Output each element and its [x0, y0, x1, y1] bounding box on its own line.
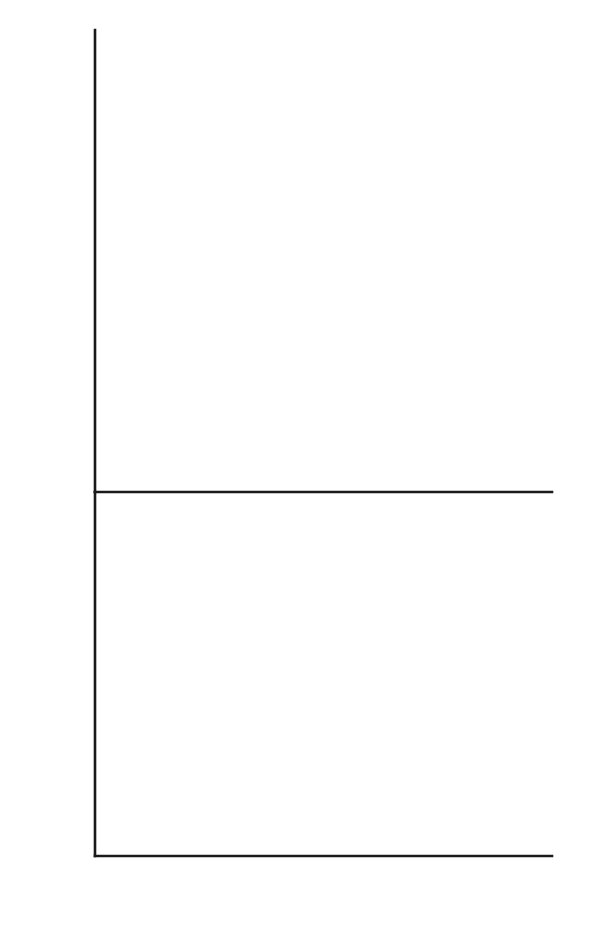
stomatal-aperture-panel	[95, 492, 552, 856]
figure-container	[0, 0, 590, 934]
two-panel-scatter-figure	[0, 0, 590, 934]
transpiration-panel	[40, 30, 552, 492]
